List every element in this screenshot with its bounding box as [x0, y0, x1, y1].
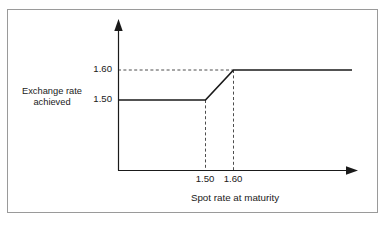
y-tick-label-1-50: 1.50 [72, 93, 112, 104]
x-axis-label: Spot rate at maturity [160, 192, 310, 204]
y-axis-arrow-icon [114, 19, 122, 31]
x-tick-label-1-60: 1.60 [213, 173, 253, 184]
figure: Exchange rate achieved 1.60 1.50 1.50 1.… [0, 0, 386, 229]
y-tick-label-1-60: 1.60 [72, 63, 112, 74]
x-axis-arrow-icon [346, 166, 358, 175]
payoff-line [118, 70, 352, 100]
